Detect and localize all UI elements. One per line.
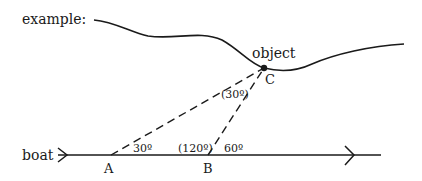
- angle-b-exterior-label: 60º: [224, 142, 243, 155]
- point-b-label: B: [203, 161, 213, 176]
- angle-b-interior-label: (120º): [178, 142, 213, 155]
- angle-a-label: 30º: [133, 142, 152, 155]
- object-point-c: [261, 65, 267, 71]
- point-a-label: A: [103, 161, 114, 176]
- diagram-canvas: example: object boat A B C 30º (120º) 60…: [0, 0, 422, 181]
- boat-label: boat: [22, 147, 54, 163]
- point-c-label: C: [265, 72, 275, 87]
- angle-c-label: (30º): [221, 88, 249, 101]
- title-label: example:: [22, 11, 86, 27]
- shoreline-curve: [94, 20, 404, 71]
- object-label: object: [252, 45, 296, 61]
